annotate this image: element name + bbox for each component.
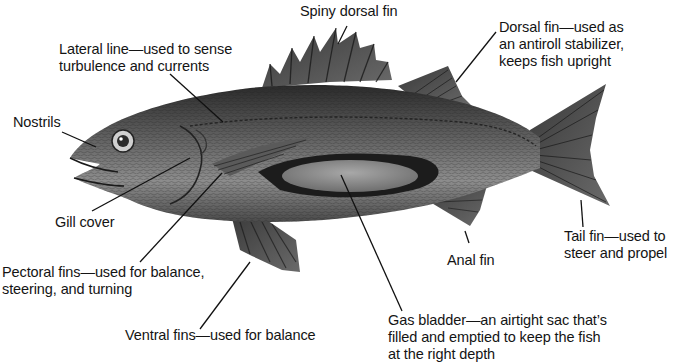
label-dorsal-fin: Dorsal fin—used as an antiroll stabilize… [499,19,624,70]
label-line: steering, and turning [2,281,204,298]
label-line: Spiny dorsal fin [300,3,398,20]
tail-fin-shape [530,84,610,206]
label-line: Ventral fins—used for balance [125,327,316,344]
label-line: Anal fin [447,252,495,269]
label-anal-fin: Anal fin [447,252,495,269]
label-line: Tail fin—used to [564,228,667,245]
label-pectoral-fins: Pectoral fins—used for balance, steering… [2,264,204,298]
leader-dorsal-fin [456,32,496,82]
leader-ventral-fins [200,262,250,329]
label-line: an antiroll stabilizer, [499,36,624,53]
label-lateral-line: Lateral line—used to sense turbulence an… [59,41,232,75]
label-line: Lateral line—used to sense [59,41,232,58]
leader-tail-fin [581,200,583,227]
label-line: steer and propel [564,245,667,262]
leader-anal-fin [465,231,469,243]
ventral-fin-shape [232,214,300,272]
label-tail-fin: Tail fin—used to steer and propel [564,228,667,262]
label-line: filled and emptied to keep the fish [388,329,607,346]
label-ventral-fins: Ventral fins—used for balance [125,327,316,344]
label-line: keeps fish upright [499,53,624,70]
label-line: Nostrils [13,114,61,131]
label-spiny-dorsal-fin: Spiny dorsal fin [300,3,398,20]
label-line: turbulence and currents [59,58,232,75]
label-line: Pectoral fins—used for balance, [2,264,204,281]
label-line: Dorsal fin—used as [499,19,624,36]
label-nostrils: Nostrils [13,114,61,131]
label-gill-cover: Gill cover [55,214,114,231]
label-line: at the right depth [388,346,607,363]
label-line: Gas bladder—an airtight sac that’s [388,312,607,329]
fish-anatomy-diagram: Spiny dorsal fin Lateral line—used to se… [0,0,676,363]
spiny-dorsal-fin-shape [262,28,392,88]
label-gas-bladder: Gas bladder—an airtight sac that’s fille… [388,312,607,363]
label-line: Gill cover [55,214,114,231]
